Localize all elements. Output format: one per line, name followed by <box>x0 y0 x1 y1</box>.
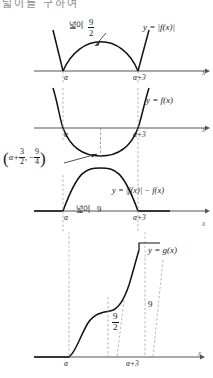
panel1-area-arrow-line <box>95 33 106 46</box>
panel1-graph <box>34 30 210 84</box>
panel4-x-axis-arrow <box>200 355 205 360</box>
panel2-parabola <box>53 88 149 156</box>
panel3-arch <box>63 168 138 211</box>
panel4-graph <box>34 232 205 359</box>
panel3-x-axis-arrow <box>205 209 210 214</box>
panel2-x-axis-arrow <box>205 126 210 131</box>
panel3-graph <box>34 168 210 232</box>
panel1-left-branch <box>53 30 63 71</box>
panel1-x-axis-arrow <box>205 69 210 74</box>
panel2-graph <box>34 88 210 170</box>
panel1-right-branch <box>138 30 149 71</box>
panel4-dash-right-outer <box>153 260 163 357</box>
panel4-rise-curve <box>69 250 139 357</box>
panel4-top-hook <box>139 243 160 250</box>
figure-graphics <box>0 0 213 378</box>
panel1-arch <box>63 42 138 71</box>
panel4-dash-mid-right <box>117 300 124 357</box>
